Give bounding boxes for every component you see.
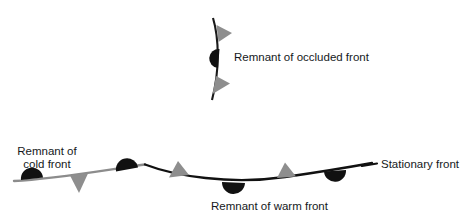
cold-front-label-line2: cold front xyxy=(23,158,71,170)
front-diagram-canvas: Remnant of occluded front Remnant of col… xyxy=(0,0,467,223)
stationary-front-label: Stationary front xyxy=(381,158,460,170)
warm-front-label: Remnant of warm front xyxy=(211,200,329,212)
weather-front-diagram: Remnant of occluded front Remnant of col… xyxy=(0,0,467,223)
cold-front-label-line1: Remnant of xyxy=(17,145,77,157)
occluded-front-label: Remnant of occluded front xyxy=(234,51,370,63)
